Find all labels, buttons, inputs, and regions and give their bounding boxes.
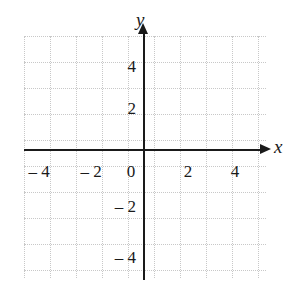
gridline-horizontal xyxy=(24,244,266,245)
gridline-horizontal xyxy=(24,166,266,167)
gridline-horizontal xyxy=(24,192,266,193)
gridline-vertical xyxy=(258,36,259,278)
gridline-vertical xyxy=(102,36,103,278)
gridline-vertical xyxy=(206,36,207,278)
x-tick-label-4: 4 xyxy=(231,163,240,180)
gridline-vertical xyxy=(76,36,77,278)
y-axis-label: y xyxy=(136,10,144,29)
y-tick-label-2: 2 xyxy=(112,100,136,117)
x-tick-label-neg2: – 2 xyxy=(80,163,101,180)
gridline-vertical xyxy=(154,36,155,278)
gridline-vertical xyxy=(180,36,181,278)
gridline-vertical xyxy=(24,36,25,278)
gridline-vertical xyxy=(232,36,233,278)
coordinate-plane: x y – 4 – 2 0 2 4 4 2 – 2 – 4 xyxy=(0,0,293,290)
x-tick-label-neg4: – 4 xyxy=(28,163,49,180)
gridline-horizontal xyxy=(24,114,266,115)
y-axis-line xyxy=(143,33,145,280)
y-tick-label-neg4: – 4 xyxy=(104,249,136,266)
y-tick-label-neg2: – 2 xyxy=(104,198,136,215)
gridline-horizontal xyxy=(24,270,266,271)
gridline-horizontal xyxy=(24,36,266,37)
x-axis-arrow-icon xyxy=(260,144,271,154)
x-tick-label-zero: 0 xyxy=(127,163,136,180)
grid xyxy=(24,36,266,278)
gridline-horizontal xyxy=(24,62,266,63)
gridline-horizontal xyxy=(24,218,266,219)
gridline-horizontal xyxy=(24,88,266,89)
gridline-horizontal xyxy=(24,140,266,141)
y-tick-label-4: 4 xyxy=(112,58,136,75)
x-tick-label-2: 2 xyxy=(184,163,193,180)
x-axis-label: x xyxy=(274,137,282,156)
gridline-vertical xyxy=(50,36,51,278)
